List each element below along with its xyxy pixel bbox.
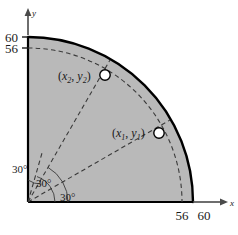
point-1-marker[interactable] — [154, 128, 164, 138]
angle-label-1: 30° — [12, 163, 27, 175]
point-2-label: (x2, y2) — [58, 69, 91, 85]
point-1-label: (x1, y1) — [112, 126, 145, 142]
x-axis-label: x — [229, 198, 234, 208]
quarter-disc-fill — [28, 37, 193, 202]
angle-label-2: 30° — [36, 177, 51, 189]
geometry-figure: y x 60 56 56 60 30° 30° 30° (x2, y2) (x1… — [0, 0, 238, 235]
x-tick-label-56: 56 — [176, 208, 190, 223]
point-2-marker[interactable] — [100, 70, 110, 80]
y-tick-label-56: 56 — [5, 41, 19, 56]
point-2-paren-close: ) — [87, 69, 91, 83]
y-axis-arrowhead — [25, 8, 32, 16]
point-1-paren-close: ) — [141, 126, 145, 140]
angle-label-3: 30° — [60, 191, 75, 203]
x-axis-arrowhead — [220, 199, 228, 206]
y-axis-label: y — [31, 8, 36, 18]
x-tick-label-60: 60 — [198, 208, 211, 223]
figure-svg: y x 60 56 56 60 30° 30° 30° (x2, y2) (x1… — [0, 0, 238, 235]
